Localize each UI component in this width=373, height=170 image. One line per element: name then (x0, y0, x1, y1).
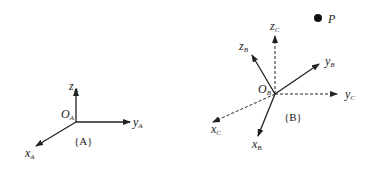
frame-a-origin-label: OA (61, 107, 75, 122)
frame-a-x-label: xA (24, 146, 35, 161)
frame-b-name: {B} (284, 111, 302, 123)
frame-b-y-axis (275, 64, 319, 94)
frame-b-z-label: zB (238, 39, 249, 54)
frame-a-y-label: yA (132, 115, 143, 130)
point-p: P (314, 12, 336, 26)
frame-b: zC yC xC zB yB xB OB {B} (210, 19, 355, 152)
frame-a-x-axis (36, 122, 76, 146)
frame-a-z-label: zA (68, 79, 79, 94)
frame-b-x-label: xB (251, 137, 262, 152)
frame-c-x-label: xC (210, 122, 221, 137)
frame-a-name: {A} (74, 135, 93, 147)
frame-c-z-label: zC (269, 19, 280, 34)
frame-c-y-label: yC (344, 87, 355, 102)
coordinate-frames-diagram: zA yA xA OA {A} zC yC xC zB yB xB OB {B}… (0, 0, 373, 170)
point-p-label: P (327, 12, 336, 26)
point-p-dot (314, 14, 322, 22)
frame-b-y-label: yB (324, 54, 335, 69)
frame-a: zA yA xA OA {A} (24, 79, 143, 161)
